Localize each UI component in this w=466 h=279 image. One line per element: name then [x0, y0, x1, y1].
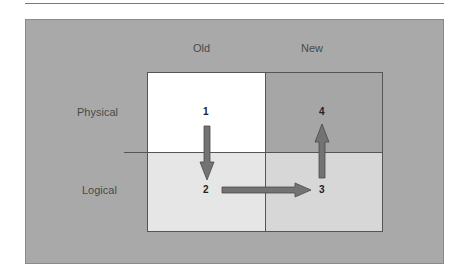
arrow-1-to-2-icon: [200, 126, 214, 180]
arrow-2-to-3-icon: [222, 183, 311, 197]
arrow-3-to-4-icon: [315, 124, 329, 178]
arrows-layer: [0, 0, 466, 279]
